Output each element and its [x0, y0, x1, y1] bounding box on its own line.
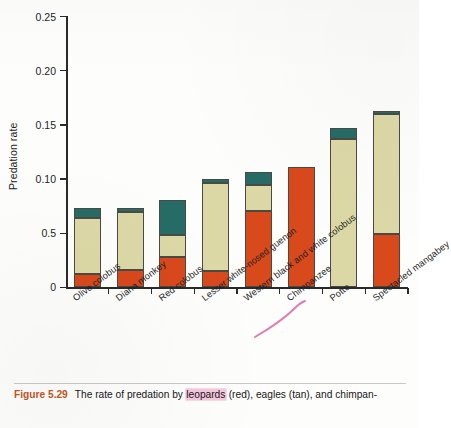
- bar-segment-chimpanzees: [202, 179, 229, 183]
- bar-segment-eagles: [202, 183, 229, 271]
- caption-highlight-leopards: leopards: [186, 389, 226, 400]
- bar-series-container: [0, 0, 419, 382]
- bar-segment-chimpanzees: [245, 172, 272, 185]
- bar-segment-chimpanzees: [74, 208, 101, 218]
- bar-segment-chimpanzees: [373, 111, 400, 114]
- bar-segment-chimpanzees: [159, 200, 186, 236]
- caption-text-before: The rate of predation by: [75, 389, 186, 400]
- bar-segment-eagles: [159, 235, 186, 257]
- chart-area: Predation rate 0.250.200.150.100.50 Oliv…: [0, 0, 419, 382]
- bar-segment-chimpanzees: [117, 208, 144, 211]
- bar-segment-eagles: [245, 185, 272, 211]
- bar-group: [202, 179, 229, 287]
- bar-segment-eagles: [373, 114, 400, 234]
- bar-segment-eagles: [74, 218, 101, 274]
- caption-divider: [14, 383, 406, 384]
- figure-number: Figure 5.29: [14, 389, 68, 400]
- bar-segment-eagles: [330, 139, 357, 287]
- bar-group: [373, 111, 400, 288]
- bar-group: [330, 128, 357, 287]
- caption-text-after: (red), eagles (tan), and chimpan-: [226, 389, 377, 400]
- figure-caption: Figure 5.29The rate of predation by leop…: [0, 388, 419, 402]
- bar-segment-eagles: [117, 212, 144, 270]
- bar-segment-chimpanzees: [330, 128, 357, 139]
